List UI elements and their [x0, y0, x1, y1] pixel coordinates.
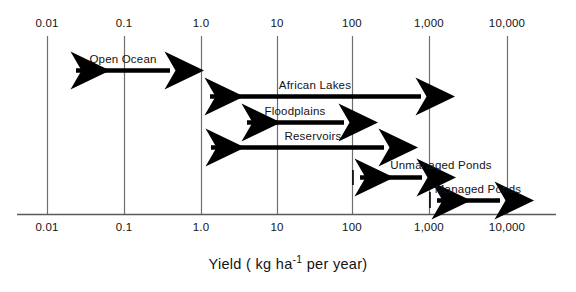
bottom-tick-label-1: 0.1 [116, 222, 133, 234]
x-axis-title-exponent: -1 [293, 254, 303, 265]
bottom-tick-label-2: 1.0 [193, 222, 210, 234]
top-tick-label-1: 0.1 [116, 18, 133, 30]
series-label-reservoirs: Reservoirs [285, 131, 342, 143]
bottom-tick-label-3: 10 [270, 222, 283, 234]
series-label-open-ocean: Open Ocean [89, 54, 156, 66]
series-label-african-lakes: African Lakes [279, 80, 351, 92]
bottom-tick-label-5: 1,000 [414, 222, 444, 234]
bottom-tick-label-6: 10,000 [489, 222, 525, 234]
chart-plot-area [0, 0, 576, 292]
series-label-floodplains: Floodplains [264, 106, 325, 118]
range-arrow-unmanaged-ponds [353, 170, 429, 185]
series-label-unmanaged-ponds: Unmanaged Ponds [390, 160, 491, 172]
yield-range-chart: 0.01 0.1 1.0 10 100 1,000 10,000 0.01 0.… [0, 0, 576, 292]
top-tick-label-5: 1,000 [414, 18, 444, 30]
x-axis-title-prefix: Yield ( kg ha [209, 256, 293, 272]
top-tick-label-6: 10,000 [489, 18, 525, 30]
series-label-managed-ponds: Managed Ponds [435, 184, 521, 196]
bottom-tick-label-0: 0.01 [35, 222, 58, 234]
top-tick-label-3: 10 [270, 18, 283, 30]
top-tick-label-0: 0.01 [35, 18, 58, 30]
x-axis-title-suffix: per year) [302, 256, 367, 272]
top-tick-label-2: 1.0 [193, 18, 210, 30]
bottom-tick-label-4: 100 [342, 222, 362, 234]
top-tick-label-4: 100 [342, 18, 362, 30]
x-axis-title: Yield ( kg ha-1 per year) [0, 256, 576, 272]
